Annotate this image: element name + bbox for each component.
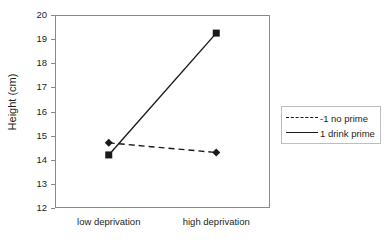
legend-item-drink-prime: 1 drink prime (286, 126, 375, 140)
diamond-marker-icon (212, 149, 220, 157)
legend-label-no-prime: -1 no prime (320, 113, 368, 124)
series-line (109, 33, 217, 155)
diamond-marker-icon (105, 139, 113, 147)
legend-item-no-prime: -1 no prime (286, 111, 368, 125)
square-marker-icon (213, 30, 220, 37)
square-marker-icon (105, 151, 112, 158)
chart-figure: Height (cm) 121314151617181920 low depri… (0, 0, 389, 245)
legend-key-dashed-diamond (286, 112, 318, 124)
legend-label-drink-prime: 1 drink prime (320, 128, 375, 139)
legend-key-solid-square (286, 127, 318, 139)
legend: -1 no prime 1 drink prime (281, 106, 381, 144)
series-line (109, 143, 217, 153)
